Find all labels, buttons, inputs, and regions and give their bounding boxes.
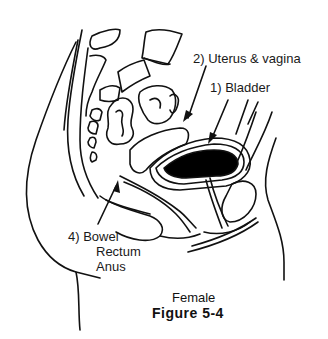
coccyx-3 [88,137,96,148]
intestine-loop-1 [107,98,134,144]
rectum-inner [106,200,150,214]
vertebra-top [90,29,120,49]
labia-3 [188,222,258,252]
pubic-bone [222,181,256,222]
coccyx-1 [90,109,102,121]
figure-subtitle: Female [172,290,215,305]
intestine-loop-1-inner [116,110,123,136]
label-bowel: 4) Bowel [68,229,141,244]
figure-title: Figure 5-4 [152,305,224,321]
label-anus: Anus [96,259,141,274]
uterus-arrow-line [188,66,206,118]
bladder-line-2 [236,100,248,134]
perineum-1 [160,234,200,238]
intestine-loop-2-inner [150,98,160,108]
coccyx-4 [91,152,97,162]
label-bladder: 1) Bladder [210,80,270,95]
bowel-arrow-line [98,186,116,224]
coccyx-2 [88,121,98,134]
labia-2 [192,218,256,246]
label-uterus-vagina: 2) Uterus & vagina [193,51,301,66]
sacrum [86,55,106,116]
label-rectum: Rectum [96,244,141,259]
sacrum-segment-1 [118,60,150,92]
body-outline-front [266,138,284,280]
label-bowel-group: 4) Bowel Rectum Anus [68,229,141,274]
thigh-line [76,272,80,330]
uterus-arrow-head [183,110,193,122]
bowel-arrow-head [113,180,120,193]
intestine-loop-2 [139,86,176,124]
bladder-arrow-line [212,100,228,138]
